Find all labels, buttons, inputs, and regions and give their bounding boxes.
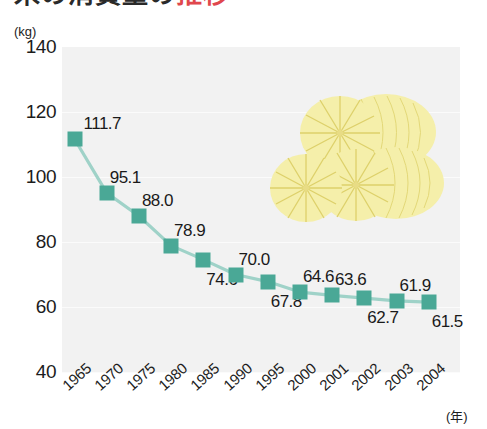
data-point-marker [421, 295, 436, 310]
y-axis-tick-label: 140 [0, 36, 56, 58]
data-point-label: 61.9 [400, 276, 431, 296]
data-point-label: 95.1 [110, 168, 141, 188]
data-point-marker [260, 274, 275, 289]
line-chart: (kg) 140120100806040 1965197019751980198… [0, 0, 487, 429]
y-axis: 140120100806040 [0, 0, 56, 429]
y-axis-tick-label: 40 [0, 361, 56, 383]
data-point-label: 62.7 [367, 308, 398, 328]
data-point-label: 63.6 [335, 270, 366, 290]
data-point-label: 70.0 [239, 250, 270, 270]
gridline [62, 112, 460, 113]
y-axis-tick-label: 80 [0, 231, 56, 253]
data-point-marker [196, 252, 211, 267]
data-point-label: 78.9 [174, 221, 205, 241]
data-point-label: 64.6 [303, 267, 334, 287]
data-point-marker [67, 131, 82, 146]
data-point-label: 88.0 [142, 191, 173, 211]
gridline [62, 242, 460, 243]
data-point-label: 111.7 [84, 114, 122, 134]
y-axis-tick-label: 100 [0, 166, 56, 188]
data-point-label: 61.5 [432, 312, 463, 332]
y-axis-tick-label: 120 [0, 101, 56, 123]
y-axis-tick-label: 60 [0, 296, 56, 318]
data-point-marker [357, 291, 372, 306]
x-axis-unit: (年) [446, 406, 468, 425]
plot-area [62, 47, 460, 372]
